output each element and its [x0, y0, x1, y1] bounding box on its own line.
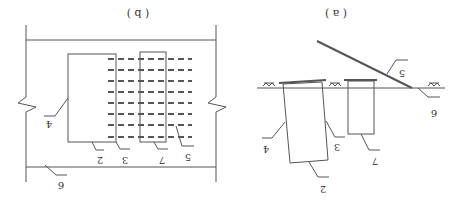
leader-a-6 [418, 88, 440, 97]
leader-7 [154, 142, 168, 149]
label-a-5: 5 [399, 68, 405, 79]
panel-a: ( a ) 4 3 2 7 5 6 [257, 7, 445, 195]
panel-a-caption: ( a ) [325, 7, 347, 20]
label-a-7: 7 [372, 156, 378, 167]
label-6: 6 [58, 180, 64, 191]
leader-a-4 [262, 122, 285, 138]
label-a-3: 3 [334, 142, 340, 153]
label-a-2: 2 [320, 184, 326, 195]
panel-b-caption: ( b ) [127, 7, 150, 20]
label-4: 4 [46, 119, 52, 130]
diaphragm-panel [68, 54, 116, 142]
panel-b: ( b ) 4 2 3 7 [18, 7, 226, 191]
leader-2 [92, 142, 104, 150]
leader-3 [116, 142, 130, 149]
label-5: 5 [185, 152, 191, 163]
tilted-panel [283, 82, 328, 163]
leader-a-7 [361, 134, 380, 150]
diagram-canvas: ( b ) 4 2 3 7 [0, 0, 462, 205]
break-line-left [18, 25, 36, 182]
label-a-4: 4 [263, 144, 269, 155]
break-line-right [208, 25, 226, 182]
label-7: 7 [159, 155, 165, 166]
pile-outline [140, 52, 166, 142]
label-a-6: 6 [431, 108, 437, 119]
leader-a-2 [309, 162, 329, 177]
label-3: 3 [122, 155, 128, 166]
label-2: 2 [97, 155, 103, 166]
leader-a-3 [326, 121, 345, 137]
leader-4 [44, 98, 68, 116]
anchor-rows [108, 59, 192, 137]
pile [348, 81, 374, 134]
